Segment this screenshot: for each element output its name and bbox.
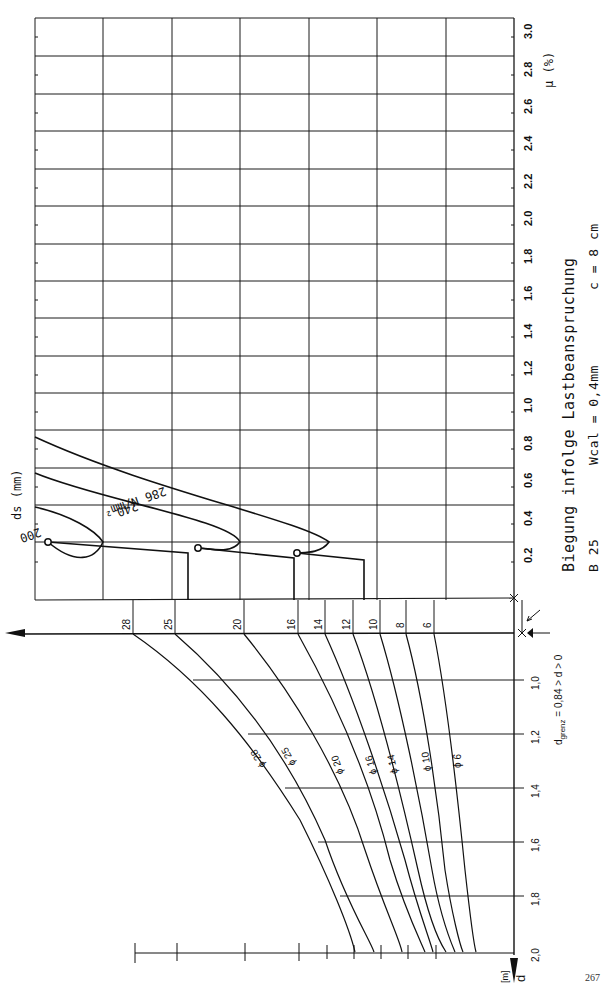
concrete-grade: B 25	[586, 539, 601, 572]
bar-label: 16	[286, 619, 297, 630]
d-tick: 1,0	[530, 676, 541, 690]
stress-curves	[35, 437, 364, 600]
mu-tick: 0.2	[522, 548, 534, 563]
arrow-left-icon	[5, 629, 25, 637]
ds-axis-title: ds (mm)	[10, 469, 24, 520]
wcal-value: Wcal = 0,4mm	[586, 365, 601, 465]
bar-label: 10	[368, 619, 379, 630]
mu-tick: 1.0	[522, 398, 534, 413]
bar-label: 20	[232, 619, 243, 630]
bottom-scale	[135, 943, 514, 963]
curve-286	[35, 437, 329, 553]
cover-value: c = 8 cm	[586, 223, 601, 290]
mu-tick: 2.6	[522, 99, 534, 114]
mu-tick: 1.6	[522, 286, 534, 301]
mu-tick: 2.4	[522, 136, 534, 151]
mu-tick: 1.8	[522, 249, 534, 264]
d-axis-title: d	[513, 975, 528, 982]
dgrenz-sub: grenz	[558, 719, 567, 739]
bar-label: 12	[341, 619, 352, 630]
mu-tick: 0.8	[522, 436, 534, 451]
dgrenz-d: d	[553, 739, 564, 745]
phi-curves	[133, 634, 476, 952]
bar-diameter-strip	[133, 600, 434, 634]
arrow-marker-icon	[527, 628, 533, 638]
d-tick: 1,4	[530, 784, 541, 798]
d-axis-unit: [m]	[500, 971, 510, 984]
mu-tick: 2.2	[522, 174, 534, 189]
curve-200	[35, 507, 103, 557]
mu-tick: 0.4	[522, 511, 534, 526]
bar-label: 14	[313, 619, 324, 630]
bar-label: 6	[422, 622, 433, 628]
page-number: 267	[585, 972, 600, 983]
chart-title: Biegung infolge Lastbeanspruchung	[560, 257, 578, 572]
d-tick-lines	[193, 680, 524, 896]
dgrenz-rest: = 0,84 > d > 0	[553, 655, 564, 720]
d-tick: 1,8	[530, 892, 541, 906]
mu-tick: 0.6	[522, 473, 534, 488]
mu-tick: 2.8	[522, 62, 534, 77]
mu-tick: 1.4	[522, 324, 534, 339]
d-tick: 2,0	[530, 948, 541, 962]
phi-label: ϕ 6	[452, 754, 463, 768]
mu-tick: 3.0	[522, 24, 534, 39]
mu-tick: 2.0	[522, 211, 534, 226]
bar-label: 8	[395, 622, 406, 628]
mu-axis-title: μ (%)	[542, 52, 556, 88]
small-arrow-icon	[527, 610, 540, 621]
d-tick: 1,6	[530, 838, 541, 852]
bar-label: 25	[163, 619, 174, 630]
d-tick: 1,2	[530, 730, 541, 744]
nomogram-chart	[0, 0, 607, 985]
bar-label: 28	[121, 619, 132, 630]
dgrenz-annotation: dgrenz = 0,84 > d > 0	[553, 655, 567, 745]
mu-tick: 1.2	[522, 361, 534, 376]
